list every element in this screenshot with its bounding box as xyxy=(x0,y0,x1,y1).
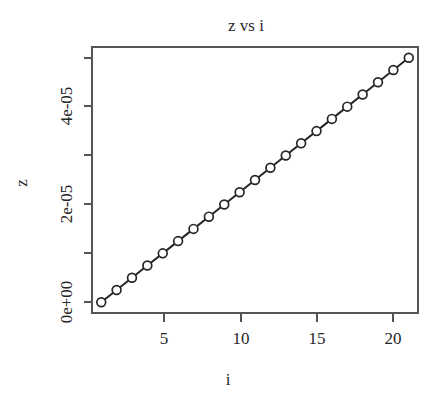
chart-canvas: z vs i 0e+00 2e-05 4e-05 5 10 15 20 z xyxy=(0,0,439,405)
data-point-marker xyxy=(143,261,152,270)
x-tick-label-15: 15 xyxy=(309,329,326,348)
y-tick-label-2e-05: 2e-05 xyxy=(57,185,76,224)
plot-figure: z vs i 0e+00 2e-05 4e-05 5 10 15 20 z xyxy=(0,0,439,405)
data-point-marker xyxy=(174,237,183,246)
data-point-marker xyxy=(204,212,213,221)
data-point-marker xyxy=(220,200,229,209)
data-point-marker xyxy=(266,163,275,172)
y-tick-label-0e00: 0e+00 xyxy=(57,281,76,324)
x-axis-title: i xyxy=(226,370,231,389)
data-point-marker xyxy=(404,53,413,62)
data-point-marker xyxy=(281,151,290,160)
y-axis-title: z xyxy=(12,179,31,187)
data-point-marker xyxy=(297,139,306,148)
data-point-marker xyxy=(97,298,106,307)
data-point-marker xyxy=(189,225,198,234)
x-tick-label-5: 5 xyxy=(160,329,169,348)
data-point-marker xyxy=(374,78,383,87)
chart-title: z vs i xyxy=(228,16,264,35)
data-point-marker xyxy=(358,90,367,99)
x-tick-label-10: 10 xyxy=(233,329,250,348)
data-point-marker xyxy=(343,102,352,111)
data-point-marker xyxy=(327,114,336,123)
data-point-marker xyxy=(158,249,167,258)
data-point-marker xyxy=(312,127,321,136)
data-point-marker xyxy=(235,188,244,197)
data-point-marker xyxy=(389,66,398,75)
data-point-marker xyxy=(128,273,137,282)
y-tick-label-4e-05: 4e-05 xyxy=(57,87,76,126)
data-point-marker xyxy=(251,176,260,185)
data-point-marker xyxy=(112,286,121,295)
x-tick-label-20: 20 xyxy=(385,329,402,348)
